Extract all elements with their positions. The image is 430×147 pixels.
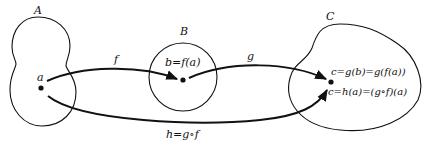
set-a-label: A (33, 4, 42, 17)
set-c-boundary (289, 24, 421, 131)
set-b-boundary (149, 43, 217, 111)
point-b (180, 77, 185, 82)
point-c (328, 79, 333, 84)
point-c-label-top: c=g(b)=g(f(a)) (331, 66, 406, 77)
set-c-label: C (326, 10, 335, 23)
arrow-h-label: h=g∘f (166, 128, 201, 141)
arrow-g-label: g (247, 50, 254, 63)
point-a-label: a (37, 71, 44, 84)
arrow-g (189, 65, 326, 79)
arrow-h (48, 90, 327, 122)
arrow-f-label: f (113, 53, 120, 66)
set-b-label: B (179, 25, 188, 38)
arrow-f (47, 69, 177, 81)
point-b-label: b=f(a) (165, 56, 200, 69)
point-c-label-bottom: c=h(a)=(g∘f)(a) (328, 86, 407, 97)
point-a (38, 85, 43, 90)
composition-diagram: A B C a b=f(a) c=g(b)=g(f(a)) c=h(a)=(g∘… (0, 0, 430, 147)
